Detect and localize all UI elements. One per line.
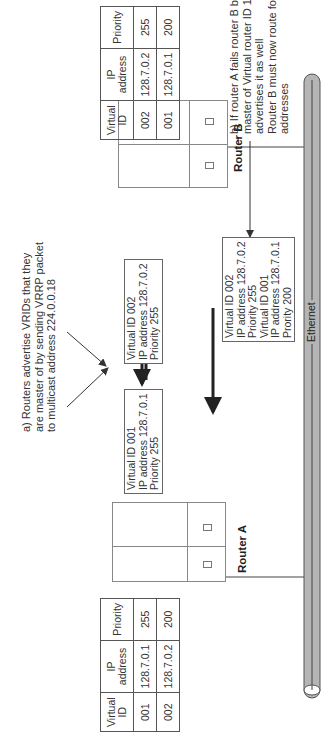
table-header: Priority [101, 6, 134, 48]
note-a: a) Routers advertise VRIDs that they are… [20, 242, 58, 432]
advertisement-router-b-failover: Virtual ID 002 IP address 128.7.0.2 Prio… [222, 237, 295, 342]
vrid-table-router-b: Virtual ID IP address Priority 002 128.7… [100, 10, 176, 140]
led-icon [205, 118, 214, 125]
table-header: IP address [101, 640, 134, 693]
router-a-label: Router A [236, 525, 248, 573]
advertisement-router-a: Virtual ID 001 IP address 128.7.0.1 Prio… [124, 389, 163, 494]
arrow-note-to-adv-b [67, 368, 108, 407]
note-b-text: b) If router A fails router B becomes ma… [228, 0, 291, 134]
vrrp-diagram: Virtual ID IP address Priority 001 128.7… [0, 0, 332, 740]
led-icon [203, 561, 212, 568]
table-row: 002 128.7.0.2 200 [157, 598, 180, 731]
ethernet-label: Ethernet [305, 300, 317, 344]
advertisement-router-b: Virtual ID 002 IP address 128.7.0.2 Prio… [124, 259, 163, 364]
table-header: Priority [101, 598, 134, 640]
router-a [112, 502, 226, 582]
table-header: Virtual ID [101, 101, 134, 140]
ethernet-cable [304, 74, 320, 698]
table-row: 001 128.7.0.1 255 [134, 598, 157, 731]
table-row: 001 128.7.0.1 200 [157, 6, 180, 139]
led-icon [203, 524, 212, 531]
table-header: IP address [101, 48, 134, 101]
led-icon [205, 162, 214, 169]
arrow-note-to-adv-a [67, 332, 106, 366]
table-header: Virtual ID [101, 693, 134, 732]
table-row: 002 128.7.0.2 255 [134, 6, 157, 139]
vrid-table-router-a: Virtual ID IP address Priority 001 128.7… [100, 602, 176, 732]
